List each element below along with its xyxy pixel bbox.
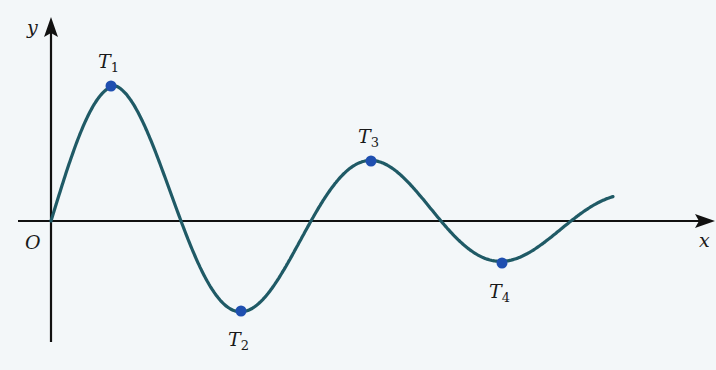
point-t2	[236, 306, 247, 317]
point-label-t4: T4	[489, 282, 510, 304]
damped-oscillation-diagram: y x O T1 T2 T3 T4	[0, 0, 716, 370]
point-label-t3: T3	[358, 127, 379, 149]
point-label-t2: T2	[228, 330, 249, 352]
points-group	[106, 81, 508, 317]
point-t3	[366, 156, 377, 167]
origin-label: O	[25, 233, 41, 252]
oscillation-curve	[51, 86, 613, 312]
x-axis-label: x	[699, 231, 710, 250]
y-axis-label: y	[27, 18, 38, 37]
point-label-t1: T1	[98, 52, 119, 74]
point-t1	[106, 81, 117, 92]
point-t4	[497, 258, 508, 269]
